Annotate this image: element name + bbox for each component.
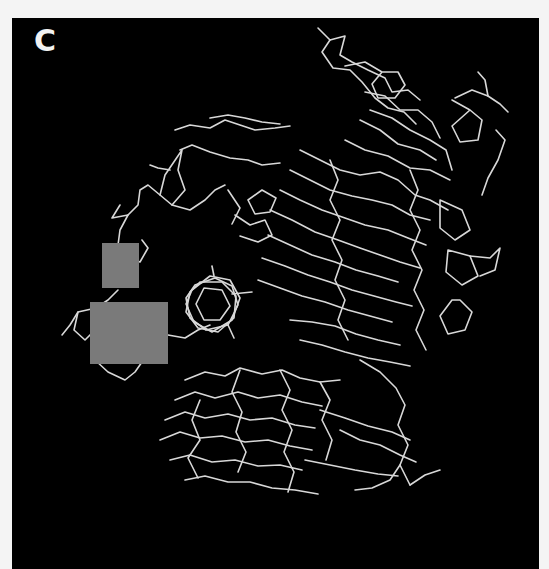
- lower-strand: [160, 360, 440, 494]
- helix-core: [228, 150, 500, 366]
- upper-strand: [318, 28, 508, 195]
- redaction-box-1: [102, 243, 139, 288]
- ring-ligand: [186, 266, 252, 338]
- redaction-box-2: [90, 302, 168, 364]
- left-arc-strand: [112, 115, 290, 245]
- molecular-structure-wireframe: [0, 0, 549, 569]
